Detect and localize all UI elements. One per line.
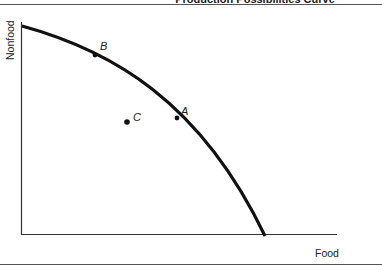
point-b-marker <box>93 53 98 58</box>
point-c-marker <box>124 119 130 125</box>
y-axis-label: Nonfood <box>4 20 16 60</box>
ppc-chart: Production Possibilities Curve B A C Foo… <box>0 0 382 271</box>
x-axis-label: Food <box>315 247 339 259</box>
ppf-curve <box>22 26 265 236</box>
point-a-marker <box>175 116 180 121</box>
point-b-label: B <box>100 40 107 52</box>
point-a-label: A <box>180 105 188 117</box>
point-c-label: C <box>133 111 141 123</box>
